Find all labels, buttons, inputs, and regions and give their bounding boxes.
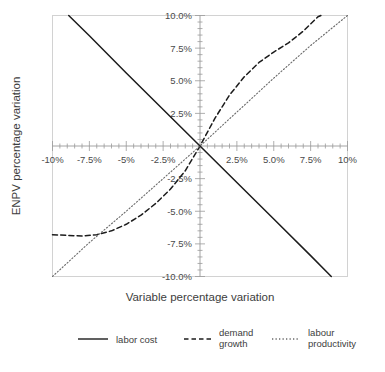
x-tick-label: 7.5% xyxy=(300,154,322,165)
legend-item-demand-growth[interactable]: demand growth xyxy=(184,327,253,349)
x-tick-label: 5.0% xyxy=(263,154,285,165)
legend-label-labour-productivity-line1: labour xyxy=(308,327,334,338)
y-tick-label: 5.0% xyxy=(170,75,192,86)
legend-label-labor-cost-line1: labor cost xyxy=(116,334,158,345)
y-tick-label: 2.5% xyxy=(170,108,192,119)
chart-svg: -10%-7.5%-5%-2.5%2.5%5.0%7.5%10% 10.0%7.… xyxy=(0,0,385,372)
y-tick-label: -10.0% xyxy=(162,271,193,282)
y-tick-label: 10.0% xyxy=(165,10,192,21)
x-axis-title: Variable percentage variation xyxy=(126,291,275,303)
y-axis-title: ENPV percentage variation xyxy=(10,77,22,216)
legend-label-demand-growth-line2: growth xyxy=(219,338,248,349)
x-tick-label: -7.5% xyxy=(77,154,102,165)
x-tick-label: -10% xyxy=(41,154,64,165)
x-tick-label: -5% xyxy=(118,154,135,165)
y-tick-label: 7.5% xyxy=(170,43,192,54)
y-tick-label: -2.5% xyxy=(167,173,192,184)
legend-label-demand-growth-line1: demand xyxy=(219,327,253,338)
legend-label-labour-productivity-line2: productivity xyxy=(308,338,356,349)
chart-legend: labor cost demand growth labour producti… xyxy=(78,327,356,349)
legend-item-labor-cost[interactable]: labor cost xyxy=(78,334,158,345)
x-tick-label: 2.5% xyxy=(226,154,248,165)
legend-item-labour-productivity[interactable]: labour productivity xyxy=(272,327,356,349)
y-tick-label: -5.0% xyxy=(167,206,192,217)
sensitivity-chart: -10%-7.5%-5%-2.5%2.5%5.0%7.5%10% 10.0%7.… xyxy=(0,0,385,372)
x-tick-label: 10% xyxy=(338,154,358,165)
y-tick-label: -7.5% xyxy=(167,238,192,249)
x-tick-label: -2.5% xyxy=(151,154,176,165)
